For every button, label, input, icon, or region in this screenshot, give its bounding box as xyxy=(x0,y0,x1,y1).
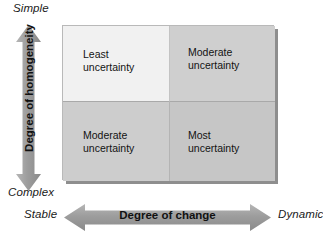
uncertainty-matrix: Least uncertainty Moderate uncertainty M… xyxy=(62,25,274,180)
quadrant-bottom-right-label: Most uncertainty xyxy=(188,129,239,155)
diagram-canvas: Simple Complex Stable Dynamic Degree of … xyxy=(0,0,323,242)
horizontal-double-arrow-icon: Degree of change xyxy=(64,204,271,231)
quadrant-top-right[interactable]: Moderate uncertainty xyxy=(170,26,275,102)
quadrant-bottom-left[interactable]: Moderate uncertainty xyxy=(63,102,170,181)
quadrant-top-left-label: Least uncertainty xyxy=(83,48,134,74)
quadrant-bottom-right[interactable]: Most uncertainty xyxy=(170,102,275,181)
quadrant-top-left[interactable]: Least uncertainty xyxy=(63,26,170,102)
x-axis-right-label: Dynamic xyxy=(278,208,323,220)
y-axis-top-label: Simple xyxy=(13,2,49,14)
vertical-double-arrow-icon: Degree of homogeneity xyxy=(16,25,41,191)
x-axis-left-label: Stable xyxy=(24,208,57,220)
quadrant-bottom-left-label: Moderate uncertainty xyxy=(83,129,134,155)
quadrant-top-right-label: Moderate uncertainty xyxy=(188,46,239,72)
